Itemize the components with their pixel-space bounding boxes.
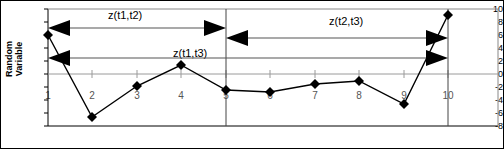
y-axis-ticks <box>44 9 48 126</box>
data-point <box>87 112 97 122</box>
chart-canvas <box>1 1 504 149</box>
data-point <box>354 76 364 86</box>
chart-figure: Random Variable 10 8 6 4 2 0 -2 -4 -6 -8… <box>0 0 504 149</box>
annotation-arrow-z-t1-t3 <box>48 50 448 66</box>
data-point <box>310 79 320 89</box>
plot-frame <box>48 9 498 126</box>
data-point <box>443 10 453 20</box>
data-point <box>132 81 142 91</box>
data-point <box>221 85 231 95</box>
data-point-markers <box>43 10 453 122</box>
data-point <box>265 87 275 97</box>
data-point <box>399 99 409 109</box>
annotation-arrow-z-t2-t3 <box>226 30 448 46</box>
annotation-arrow-z-t1-t2 <box>48 20 226 36</box>
data-point <box>43 30 53 40</box>
reference-lines <box>226 9 448 126</box>
data-point <box>176 60 186 70</box>
